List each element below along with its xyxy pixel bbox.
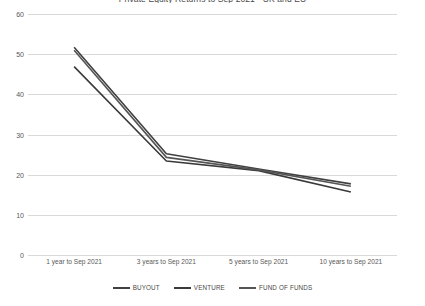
- legend-label: FUND OF FUNDS: [259, 284, 312, 291]
- y-tick-label: 50: [0, 51, 24, 58]
- plot-area: [28, 14, 397, 255]
- series-lines: [28, 14, 397, 255]
- chart-legend: BUYOUTVENTUREFUND OF FUNDS: [0, 284, 425, 291]
- x-axis-labels: 1 year to Sep 20213 years to Sep 20215 y…: [28, 259, 397, 273]
- y-tick-label: 30: [0, 131, 24, 138]
- x-tick-label: 10 years to Sep 2021: [320, 259, 383, 266]
- x-tick-label: 1 year to Sep 2021: [46, 259, 102, 266]
- y-tick-label: 10: [0, 211, 24, 218]
- y-tick-label: 20: [0, 171, 24, 178]
- legend-item-buyout[interactable]: BUYOUT: [113, 284, 160, 291]
- chart-container: Private Equity Returns to Sep 2021 - UK …: [0, 0, 425, 306]
- y-tick-label: 60: [0, 11, 24, 18]
- legend-label: BUYOUT: [133, 284, 160, 291]
- y-tick-label: 40: [0, 91, 24, 98]
- legend-item-fund-of-funds[interactable]: FUND OF FUNDS: [239, 284, 312, 291]
- legend-line-icon: [113, 287, 130, 289]
- chart-title: Private Equity Returns to Sep 2021 - UK …: [0, 0, 425, 3]
- legend-label: VENTURE: [194, 284, 225, 291]
- x-tick-label: 3 years to Sep 2021: [137, 259, 196, 266]
- legend-line-icon: [239, 287, 256, 289]
- series-line-venture: [74, 67, 351, 192]
- x-tick-label: 5 years to Sep 2021: [229, 259, 288, 266]
- gridline: [28, 255, 397, 256]
- y-tick-label: 0: [0, 252, 24, 259]
- legend-item-venture[interactable]: VENTURE: [174, 284, 225, 291]
- legend-line-icon: [174, 287, 191, 289]
